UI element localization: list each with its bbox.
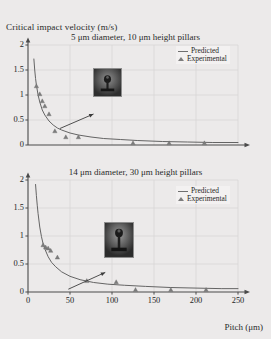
- chart-panel-top: 5 μm diameter, 10 μm height pillars: [0, 32, 271, 157]
- legend-label-experimental: Experimental: [187, 55, 227, 64]
- y-tick-label-top-1: 0.5: [0, 115, 24, 124]
- line-swatch-icon: [178, 191, 188, 192]
- x-tick-label-5: 250: [232, 296, 245, 305]
- x-tick-label-2: 100: [106, 296, 119, 305]
- y-tick-label-top-2: 1: [0, 90, 24, 99]
- y-axis-title: Critical impact velocity (m/s): [6, 22, 117, 32]
- legend-entry-experimental: Experimental: [178, 55, 227, 63]
- triangle-marker-icon: [178, 197, 184, 201]
- y-tick-label-bottom-0: 0: [0, 287, 24, 296]
- chart-title-bottom: 14 μm diameter, 30 μm height pillars: [10, 167, 261, 177]
- legend-bottom: Predicted Experimental: [176, 186, 230, 204]
- x-tick-label-4: 200: [190, 296, 203, 305]
- inset-micrograph-bottom: [104, 222, 134, 258]
- x-tick-label-3: 150: [148, 296, 161, 305]
- y-tick-label-top-3: 1.5: [0, 65, 24, 74]
- inset-micrograph-top: [93, 68, 122, 97]
- legend-top: Predicted Experimental: [176, 46, 230, 64]
- x-tick-label-1: 50: [66, 296, 74, 305]
- legend-label-experimental-bottom: Experimental: [187, 195, 227, 204]
- triangle-marker-icon: [178, 57, 184, 61]
- y-tick-label-bottom-4: 2: [0, 175, 24, 184]
- y-tick-label-bottom-2: 1: [0, 231, 24, 240]
- line-swatch-icon: [178, 51, 188, 52]
- y-tick-label-top-4: 2: [0, 40, 24, 49]
- legend-entry-experimental-bottom: Experimental: [178, 195, 227, 203]
- y-tick-label-bottom-3: 1.5: [0, 203, 24, 212]
- y-tick-label-top-0: 0: [0, 140, 24, 149]
- x-tick-label-0: 0: [26, 296, 30, 305]
- inset-image-bottom: [105, 223, 133, 257]
- inset-image-top: [94, 69, 121, 96]
- chart-panel-bottom: 14 μm diameter, 30 μm height pillars: [0, 167, 271, 307]
- y-tick-label-bottom-1: 0.5: [0, 259, 24, 268]
- x-axis-title: Pitch (μm): [224, 322, 263, 332]
- chart-title-top: 5 μm diameter, 10 μm height pillars: [0, 32, 271, 42]
